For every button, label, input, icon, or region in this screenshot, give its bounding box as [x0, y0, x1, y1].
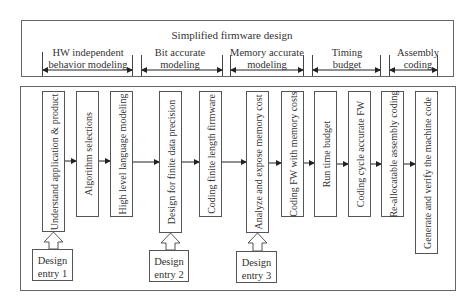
- design-entry-3: Design entry 3: [236, 251, 277, 283]
- step-label: Understand application & product: [48, 93, 59, 229]
- step-label: High level language modeling: [116, 94, 127, 215]
- design-entry-1: Design entry 1: [32, 249, 73, 281]
- entry-line1: Design: [150, 255, 188, 268]
- step-label: Run time budget: [320, 121, 331, 188]
- step-label: Coding finite length firmware: [205, 94, 216, 214]
- entry-line1: Design: [33, 254, 72, 267]
- step-coding-cycle-accurate-fw: Coding cycle accurate FW: [348, 91, 371, 217]
- entry-line2: entry 1: [33, 267, 72, 280]
- step-generate-verify-machine-code: Generate and verify the machine code: [415, 91, 438, 254]
- step-label: Re-allocatable assembly coding: [387, 90, 398, 217]
- entry-line2: entry 2: [150, 268, 188, 281]
- step-coding-fw-memory-costs: Coding FW with memory costs: [281, 91, 304, 217]
- entry-line1: Design: [237, 256, 276, 269]
- step-label: Design for finite data precision: [165, 100, 176, 224]
- step-high-level-language-modeling: High level language modeling: [110, 91, 133, 217]
- step-algorithm-selections: Algorithm selections: [76, 91, 99, 217]
- step-reallocatable-assembly-coding: Re-allocatable assembly coding: [381, 91, 404, 217]
- entry-line2: entry 3: [237, 269, 276, 282]
- step-label: Generate and verify the machine code: [421, 97, 432, 249]
- step-run-time-budget: Run time budget: [314, 91, 337, 217]
- step-design-finite-precision: Design for finite data precision: [159, 91, 182, 233]
- design-entry-2: Design entry 2: [149, 250, 189, 282]
- step-label: Algorithm selections: [82, 112, 93, 196]
- step-analyze-memory-cost: Analyze and expose memory cost: [246, 91, 269, 233]
- step-coding-finite-length-firmware: Coding finite length firmware: [199, 91, 222, 217]
- step-label: Analyze and expose memory cost: [252, 95, 263, 230]
- step-understand-application: Understand application & product: [42, 91, 65, 232]
- step-label: Coding FW with memory costs: [287, 91, 298, 216]
- step-label: Coding cycle accurate FW: [354, 101, 365, 207]
